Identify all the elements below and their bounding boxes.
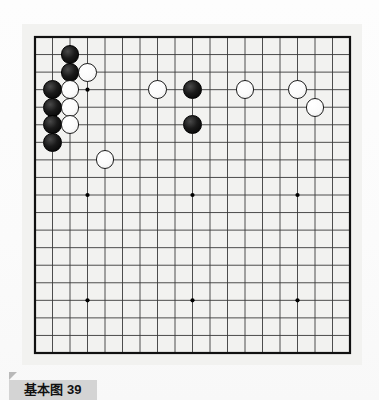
go-board[interactable]: [22, 24, 362, 365]
stone-black[interactable]: [183, 115, 202, 134]
stone-black[interactable]: [61, 45, 80, 64]
stone-white[interactable]: [288, 80, 307, 99]
caption-corner-marker-icon: [9, 372, 17, 380]
diagram-page: 基本图 39: [0, 0, 379, 400]
stone-white[interactable]: [148, 80, 167, 99]
stone-white[interactable]: [306, 98, 325, 117]
stone-black[interactable]: [183, 80, 202, 99]
stone-black[interactable]: [43, 80, 62, 99]
caption-label: 基本图 39: [9, 380, 97, 400]
stone-black[interactable]: [43, 115, 62, 134]
stone-white[interactable]: [61, 98, 80, 117]
stone-black[interactable]: [61, 63, 80, 82]
caption: 基本图 39: [0, 372, 379, 400]
stone-white[interactable]: [78, 63, 97, 82]
stone-black[interactable]: [43, 133, 62, 152]
board-grid-area[interactable]: [27, 29, 358, 361]
stone-black[interactable]: [43, 98, 62, 117]
